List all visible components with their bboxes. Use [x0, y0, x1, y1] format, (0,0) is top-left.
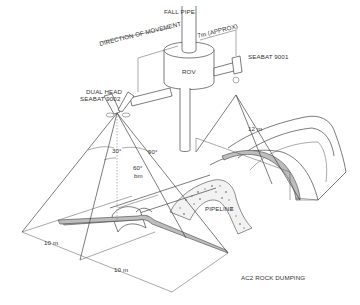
- label-angle-left: 30°: [112, 147, 122, 154]
- rock-dumping-diagram: FALL PIPE DIRECTION OF MOVEMENT 7m (APPR…: [0, 0, 360, 305]
- label-rov: ROV: [182, 68, 196, 75]
- dimension-lines: [22, 28, 300, 292]
- seabat-9001-head: [232, 56, 242, 83]
- seabed: [22, 195, 158, 260]
- label-angle-right: 90°: [148, 148, 158, 155]
- diagram-title: AC2 ROCK DUMPING: [241, 274, 305, 281]
- label-pipeline: PIPELINE: [205, 205, 234, 212]
- label-dim-a: 10 m: [44, 239, 58, 246]
- label-seabat-9001: SEABAT 9001: [248, 53, 289, 60]
- label-offset: 7m (APPROX): [197, 22, 239, 39]
- label-swath-right: 12 m: [248, 125, 262, 132]
- label-beam-angle: 60°: [133, 164, 143, 171]
- label-beam-unit: bm: [134, 172, 143, 179]
- label-seabat-9002: SEABAT 9002: [80, 95, 121, 102]
- label-dual-head: DUAL HEAD: [86, 88, 123, 95]
- label-fall-pipe: FALL PIPE: [164, 8, 195, 15]
- label-direction: DIRECTION OF MOVEMENT: [99, 20, 182, 47]
- label-dim-b: 10 m: [114, 266, 128, 273]
